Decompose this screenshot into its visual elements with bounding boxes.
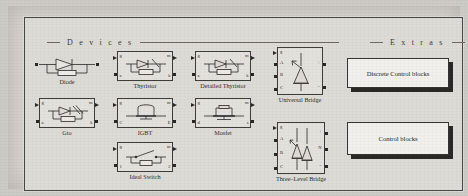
section-rule-left [47,42,60,43]
port-gate[interactable] [191,56,195,60]
section-rule-right [452,42,465,43]
port-c[interactable] [274,88,277,91]
port-cathode[interactable] [95,120,98,123]
port-label-m: m [167,145,171,150]
port-emitter[interactable] [173,120,176,123]
port-label-g: g [198,54,200,59]
mosfet-symbol [204,103,244,123]
port-collector[interactable] [114,120,117,123]
port-label-g: g [120,145,122,150]
block-thyristor[interactable]: g m a k [117,51,173,81]
section-label-extras: E x t r a s [383,38,452,47]
port-measurement[interactable] [173,103,177,107]
block-body[interactable]: Control blocks [347,122,449,155]
block-body[interactable]: g m C E [117,98,173,128]
port-terminal-2[interactable] [173,164,176,167]
block-caption: IGBT [138,129,152,136]
port-label-m: m [167,101,171,106]
port-anode[interactable] [36,120,39,123]
port-label-plus: + [319,130,322,135]
port-c[interactable] [274,167,277,170]
port-gate[interactable] [113,56,117,60]
ideal-switch-symbol [126,149,166,167]
port-label-a: a [198,74,200,79]
port-label-1: 1 [120,165,122,170]
port-a[interactable] [274,139,277,142]
block-control-blocks[interactable]: Control blocks [347,122,449,155]
port-label-c: C [280,86,283,91]
block-three-level-bridge[interactable]: g A B C + N – [277,122,325,174]
block-caption: Three–Level Bridge [276,175,326,182]
port-measurement[interactable] [251,103,255,107]
port-label-a: A [280,61,283,66]
port-terminal-1[interactable] [114,164,117,167]
port-cathode[interactable] [251,73,254,76]
port-minus[interactable] [323,86,326,89]
port-label-a: A [280,137,283,142]
port-gate[interactable] [35,103,39,107]
port-plus[interactable] [325,132,328,135]
port-b[interactable] [274,153,277,156]
port-measurement[interactable] [173,56,177,60]
port-gate[interactable] [273,126,277,130]
block-body[interactable]: g m 1 2 [117,142,173,172]
igbt-symbol [126,104,166,122]
block-body[interactable] [39,55,95,77]
port-label-d: d [198,121,200,126]
block-ideal-switch[interactable]: g m 1 2 [117,142,173,172]
port-n[interactable] [325,148,328,151]
block-caption: Gto [62,129,71,136]
thyristor-symbol [204,58,244,76]
port-label-b: B [280,73,283,78]
port-label-g: g [198,101,200,106]
section-rule-right [140,42,339,43]
port-gate[interactable] [191,103,195,107]
scan-background: D e v i c e s E x t r a s [8,6,460,189]
port-anode[interactable] [114,73,117,76]
port-label-2: 2 [168,165,170,170]
port-measurement[interactable] [95,103,99,107]
port-gate[interactable] [113,147,117,151]
diode-symbol [39,55,95,77]
gto-symbol [48,105,88,123]
port-measurement[interactable] [173,147,177,151]
block-body[interactable]: Discrete Control blocks [347,58,449,88]
port-cathode[interactable] [173,73,176,76]
port-label-c: C [280,165,283,170]
port-anode[interactable] [192,73,195,76]
block-body[interactable]: g m d s [195,98,251,128]
block-body[interactable]: g A B C + – [277,47,323,95]
port-drain[interactable] [192,120,195,123]
block-body[interactable]: g m a k [39,98,95,128]
library-window-frame: D e v i c e s E x t r a s [24,17,463,191]
block-detailed-thyristor[interactable]: g m a k [195,51,251,81]
port-gate[interactable] [113,103,117,107]
port-measurement[interactable] [251,56,255,60]
block-gto[interactable]: g m a k [39,98,95,128]
block-body[interactable]: g A B C + N – [277,122,325,174]
block-body[interactable]: g m a k [117,51,173,81]
block-universal-bridge[interactable]: g A B C + – [277,47,323,95]
block-body[interactable]: g m a k [195,51,251,81]
port-a[interactable] [274,63,277,66]
port-label-m: m [245,101,249,106]
port-gate[interactable] [273,51,277,55]
port-input[interactable] [35,63,38,66]
port-label-plus: + [317,61,320,66]
block-mosfet[interactable]: g m d s [195,98,251,128]
block-caption: Ideal Switch [129,173,160,180]
port-minus[interactable] [325,165,328,168]
port-b[interactable] [274,75,277,78]
block-discrete-control-blocks[interactable]: Discrete Control blocks [347,58,449,88]
port-source[interactable] [251,120,254,123]
port-plus[interactable] [323,63,326,66]
port-output[interactable] [96,63,99,66]
port-label-k: k [90,121,92,126]
block-igbt[interactable]: g m C E [117,98,173,128]
block-label: Discrete Control blocks [367,70,430,77]
block-diode[interactable]: Diode [39,55,95,77]
port-label-a: a [120,74,122,79]
port-label-k: k [168,74,170,79]
port-label-c: C [120,121,123,126]
port-label-m: m [167,54,171,59]
